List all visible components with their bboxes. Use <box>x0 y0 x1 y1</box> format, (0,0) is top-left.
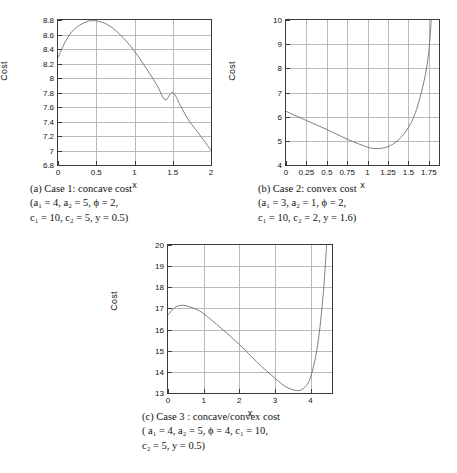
y-axis-tick-label: 7.6 <box>20 103 54 112</box>
curve-c <box>168 245 332 393</box>
y-axis-tick-label: 8 <box>20 74 54 83</box>
figure-case-2: Cost x 4567891000.250.50.7511.251.51.75 … <box>228 4 457 225</box>
y-axis-label-case-2: Cost <box>227 61 237 80</box>
curve-clip <box>168 245 332 393</box>
curve-b <box>286 20 439 165</box>
x-axis-label-case-1: x <box>57 180 212 190</box>
caption-line: (a₁ = 4, a₂ = 5, ϕ = 2, <box>30 196 222 210</box>
x-axis-tick-label: 2 <box>237 396 241 405</box>
caption-line: c₁ = 10, c₂ = 5, y = 0.5) <box>30 211 222 225</box>
curve-clip <box>286 20 439 165</box>
x-axis-label-case-3: x <box>167 408 333 418</box>
y-axis-tick-label: 8 <box>248 64 282 73</box>
data-series-cost <box>286 20 431 149</box>
y-axis-tick-label: 16 <box>130 325 164 334</box>
caption-line: ( a₁ = 4, a₂ = 5, ϕ = 4, c₁ = 10, <box>142 424 337 438</box>
y-axis-tick-label: 7 <box>20 146 54 155</box>
axes-case-2 <box>285 19 440 166</box>
x-axis-tick-label: 2 <box>209 168 213 177</box>
y-axis-tick-label: 15 <box>130 346 164 355</box>
x-axis-label-case-2: x <box>285 180 440 190</box>
x-axis-tick-label: 1.75 <box>421 168 437 177</box>
y-axis-tick <box>168 393 172 394</box>
y-axis-tick-label: 8.8 <box>20 16 54 25</box>
data-series-cost <box>58 21 211 151</box>
plot-area-case-2: Cost x 4567891000.250.50.7511.251.51.75 <box>228 4 457 182</box>
y-axis-tick-label: 4 <box>248 161 282 170</box>
x-axis-tick-label: 0.5 <box>91 168 102 177</box>
y-axis-tick-label: 7.4 <box>20 117 54 126</box>
curve-a <box>58 20 211 165</box>
x-axis-tick-label: 0 <box>284 168 288 177</box>
plot-area-case-1: Cost x 6.877.27.47.67.888.28.48.68.800.5… <box>0 4 228 182</box>
x-axis-tick-label: 0 <box>56 168 60 177</box>
y-axis-tick-label: 19 <box>130 262 164 271</box>
axes-case-1 <box>57 19 212 166</box>
y-axis-tick-label: 17 <box>130 304 164 313</box>
x-axis-tick <box>211 161 212 165</box>
data-series-cost <box>168 245 327 391</box>
caption-line: c₁ = 10, c₂ = 2, y = 1.6) <box>258 211 451 225</box>
x-axis-tick-label: 0.5 <box>321 168 332 177</box>
y-axis-tick-label: 6.8 <box>20 161 54 170</box>
x-axis-tick-label: 0 <box>166 396 170 405</box>
y-axis-label-case-1: Cost <box>0 61 9 80</box>
figure-case-3: Cost x 131415161718192001234 (c) Case 3 … <box>114 232 343 453</box>
x-axis-tick-label: 1.5 <box>403 168 414 177</box>
x-axis-tick-label: 0.75 <box>339 168 355 177</box>
y-axis-tick-label: 13 <box>130 389 164 398</box>
figure-case-1: Cost x 6.877.27.47.67.888.28.48.68.800.5… <box>0 4 228 225</box>
y-axis-tick-label: 8.6 <box>20 30 54 39</box>
y-axis-tick-label: 5 <box>248 136 282 145</box>
caption-line: (a₁ = 3, a₂ = 1, ϕ = 2, <box>258 196 451 210</box>
y-axis-tick-label: 18 <box>130 283 164 292</box>
y-axis-tick-label: 20 <box>130 241 164 250</box>
y-axis-label-case-3: Cost <box>109 291 119 310</box>
y-axis-tick-label: 8.4 <box>20 45 54 54</box>
plot-area-case-3: Cost x 131415161718192001234 <box>114 232 343 410</box>
y-axis-tick-label: 7.8 <box>20 88 54 97</box>
x-axis-tick-label: 3 <box>273 396 277 405</box>
x-axis-tick-label: 1 <box>132 168 136 177</box>
x-axis-tick-label: 4 <box>308 396 312 405</box>
x-axis-tick-label: 1 <box>365 168 369 177</box>
y-axis-tick-label: 7.2 <box>20 132 54 141</box>
axes-case-3 <box>167 244 333 394</box>
curve-clip <box>58 20 211 165</box>
x-axis-tick-label: 0.25 <box>299 168 315 177</box>
y-axis-tick-label: 14 <box>130 367 164 376</box>
x-axis-tick-label: 1.25 <box>380 168 396 177</box>
caption-line: c₂ = 5, y = 0.5) <box>142 439 337 453</box>
y-axis-tick-label: 7 <box>248 88 282 97</box>
y-axis-tick <box>286 165 290 166</box>
y-axis-tick-label: 9 <box>248 40 282 49</box>
x-axis-tick-label: 1 <box>201 396 205 405</box>
y-axis-tick-label: 6 <box>248 112 282 121</box>
y-axis-tick-label: 8.2 <box>20 59 54 68</box>
x-axis-tick-label: 1.5 <box>167 168 178 177</box>
y-axis-tick <box>58 165 62 166</box>
y-axis-tick-label: 10 <box>248 16 282 25</box>
